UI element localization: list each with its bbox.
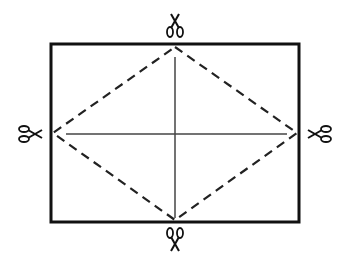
scissors-top-icon [167, 14, 183, 37]
scissors-left-icon [19, 126, 42, 142]
scissors-bottom-icon [167, 228, 183, 251]
scissors-right-icon [308, 126, 331, 142]
cutting-diagram [0, 0, 345, 268]
